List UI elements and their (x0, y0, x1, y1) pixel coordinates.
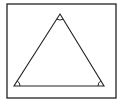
angle-arc-bottom-left (17, 81, 20, 86)
diagram-frame (7, 4, 116, 98)
angle-arc-bottom-right (98, 81, 101, 86)
angle-arc-apex (57, 19, 63, 20)
triangle-diagram (0, 0, 120, 103)
triangle (14, 14, 104, 86)
